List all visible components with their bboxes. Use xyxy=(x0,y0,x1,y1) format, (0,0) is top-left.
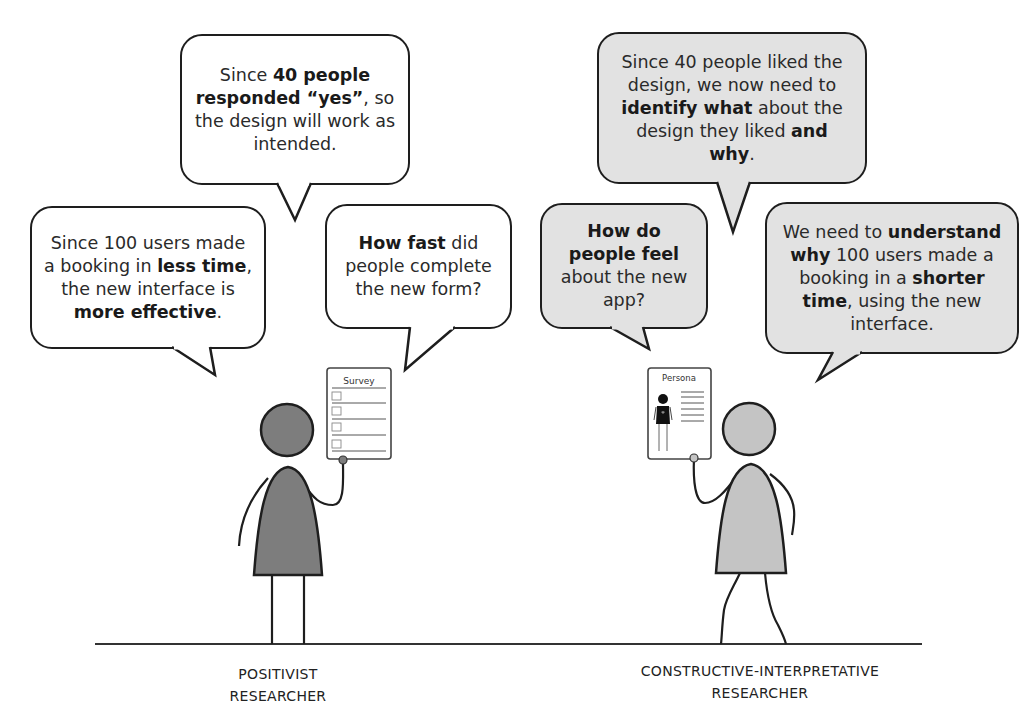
illustration-canvas: Survey Persona xyxy=(0,0,1028,728)
positivist-bubble-right: How fast did people complete the new for… xyxy=(325,204,512,329)
positivist-label: POSITIVIST RESEARCHER xyxy=(218,663,338,707)
positivist-bubble-top: Since 40 people responded “yes”, so the … xyxy=(180,34,410,185)
constructive-label: CONSTRUCTIVE-INTERPRETATIVE RESEARCHER xyxy=(620,660,900,704)
constructive-label-line1: CONSTRUCTIVE-INTERPRETATIVE xyxy=(620,660,900,682)
constructive-bubble-left: How do people feel about the new app? xyxy=(540,203,708,329)
constructive-label-line2: RESEARCHER xyxy=(620,682,900,704)
bubble-text: Since 100 users made a booking in less t… xyxy=(44,232,252,324)
bubble-text: We need to understand why 100 users made… xyxy=(779,221,1005,336)
bubble-text: How fast did people complete the new for… xyxy=(339,232,498,301)
survey-clipboard: Survey xyxy=(327,368,391,464)
bubble-text: Since 40 people liked the design, we now… xyxy=(611,51,853,166)
bubble-text: How do people feel about the new app? xyxy=(554,220,694,312)
positivist-bubble-left: Since 100 users made a booking in less t… xyxy=(30,206,266,349)
svg-text:Persona: Persona xyxy=(662,373,696,383)
positivist-label-line2: RESEARCHER xyxy=(218,685,338,707)
svg-text:Survey: Survey xyxy=(343,376,375,386)
constructive-bubble-right: We need to understand why 100 users made… xyxy=(765,202,1019,354)
bubble-text: Since 40 people responded “yes”, so the … xyxy=(194,64,396,156)
positivist-label-line1: POSITIVIST xyxy=(218,663,338,685)
persona-clipboard: Persona xyxy=(648,368,711,462)
constructive-bubble-top: Since 40 people liked the design, we now… xyxy=(597,32,867,184)
